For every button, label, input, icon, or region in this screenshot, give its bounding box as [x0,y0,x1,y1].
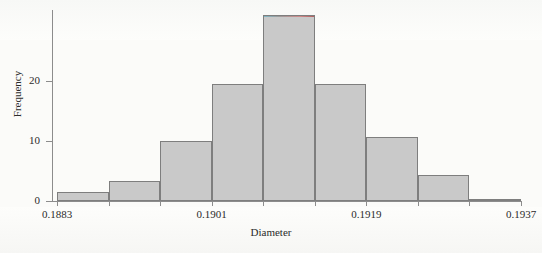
y-axis-tick-label: 0 [14,195,40,206]
histogram-bar [263,15,315,201]
y-axis-tick [46,141,53,142]
x-axis-title: Diameter [0,226,542,238]
x-axis-tick [315,201,316,206]
x-axis-tick [263,201,264,206]
bar-top-edge-artifact [264,16,314,17]
histogram-bar [366,137,418,201]
x-axis-tick-label: 0.1937 [506,208,536,220]
histogram-bar [160,141,212,201]
x-axis-tick-label: 0.1883 [42,208,72,220]
x-axis-tick [57,201,58,206]
histogram-figure: 01020 0.18830.19010.19190.1937 Frequency… [0,0,542,253]
y-axis-line [52,10,53,202]
histogram-bar [109,181,161,201]
histogram-bar [469,199,521,201]
x-axis-tick [109,201,110,206]
histogram-bar [57,192,109,201]
x-axis-tick [469,201,470,206]
y-axis-title: Frequency [11,49,23,139]
y-axis-tick [46,201,53,202]
x-axis-tick [366,201,367,206]
histogram-bars [57,10,521,201]
x-axis-tick-label: 0.1901 [197,208,227,220]
x-axis-line [52,201,522,202]
x-axis-tick [521,201,522,206]
histogram-bar [418,175,470,201]
histogram-bar [315,84,367,201]
x-axis-tick [160,201,161,206]
x-axis-tick-label: 0.1919 [351,208,381,220]
x-axis-tick [212,201,213,206]
histogram-bar [212,84,264,201]
x-axis-tick [418,201,419,206]
y-axis-tick [46,81,53,82]
